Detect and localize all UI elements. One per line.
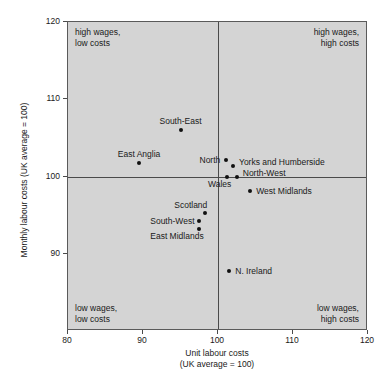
plot-area: high wages, low costs high wages, high c…: [67, 21, 367, 330]
y-axis-tick: [63, 21, 67, 22]
data-point: [227, 269, 231, 273]
data-point: [197, 219, 201, 223]
data-point: [179, 128, 183, 132]
quadrant-label-bottom-right: low wages, high costs: [317, 303, 359, 324]
x-axis-tick: [217, 330, 218, 334]
data-point-label: South-East: [160, 116, 202, 126]
data-point: [224, 158, 228, 162]
x-axis-tick-label: 110: [285, 335, 299, 345]
y-axis-tick: [63, 176, 67, 177]
data-point-label: N. Ireland: [235, 266, 272, 276]
x-axis-tick-label: 80: [62, 335, 71, 345]
reference-line-x100: [218, 22, 219, 329]
data-point: [235, 175, 239, 179]
x-axis-tick-label: 120: [360, 335, 374, 345]
data-point-label: Yorks and Humberside: [239, 157, 325, 167]
data-point-label: Scotland: [174, 200, 207, 210]
x-axis-tick: [142, 330, 143, 334]
x-axis-tick-label: 100: [210, 335, 224, 345]
x-axis-tick-label: 90: [137, 335, 146, 345]
x-axis-title-line1: Unit labour costs: [67, 348, 367, 359]
data-point-label: South-West: [150, 216, 194, 226]
y-axis-tick-label: 100: [46, 171, 60, 181]
reference-line-y100: [68, 177, 366, 178]
x-axis-title: Unit labour costs (UK average = 100): [67, 348, 367, 370]
y-axis-tick-label: 110: [46, 93, 60, 103]
x-axis-tick: [67, 330, 68, 334]
data-point-label: North-West: [243, 168, 286, 178]
y-axis-tick: [63, 253, 67, 254]
x-axis-tick: [292, 330, 293, 334]
x-axis-title-line2: (UK average = 100): [67, 359, 367, 370]
x-axis-tick: [367, 330, 368, 334]
quadrant-label-top-right: high wages, high costs: [314, 27, 359, 48]
y-axis-title: Monthly labour costs (UK average = 100): [19, 70, 29, 290]
quadrant-label-bottom-left: low wages, low costs: [75, 303, 117, 324]
scatter-chart-figure: high wages, low costs high wages, high c…: [0, 0, 385, 377]
data-point-label: East Midlands: [150, 231, 203, 241]
quadrant-label-top-left: high wages, low costs: [75, 27, 120, 48]
data-point: [231, 164, 235, 168]
y-axis-tick-label: 90: [51, 248, 60, 258]
data-point-label: West Midlands: [256, 186, 312, 196]
y-axis-tick-label: 120: [46, 16, 60, 26]
data-point-label: Wales: [208, 179, 231, 189]
data-point: [203, 211, 207, 215]
data-point: [137, 161, 141, 165]
data-point-label: North: [200, 155, 221, 165]
data-point-label: East Anglia: [118, 149, 161, 159]
y-axis-tick: [63, 98, 67, 99]
data-point: [248, 189, 252, 193]
